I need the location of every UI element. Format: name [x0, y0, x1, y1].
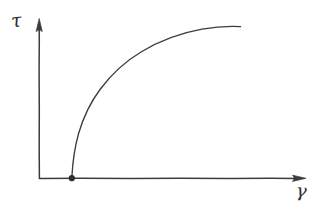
y-axis-group — [36, 19, 42, 179]
tau-gamma-sketch-figure: τ γ — [0, 0, 323, 210]
x-axis-group — [39, 175, 306, 181]
yield-point-dot — [69, 175, 75, 181]
y-axis-arrowhead-icon — [36, 19, 42, 32]
tau-gamma-curve — [72, 26, 241, 178]
y-axis-label: τ — [10, 11, 22, 31]
x-axis-label: γ — [295, 182, 307, 201]
sketch-canvas — [0, 0, 323, 210]
